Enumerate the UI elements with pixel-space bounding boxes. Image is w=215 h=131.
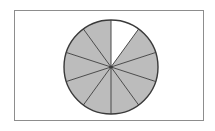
pie-chart-svg: [0, 0, 215, 131]
pie-center-dot: [109, 65, 112, 68]
pie-chart-container: [0, 0, 215, 131]
screenshot-root: [0, 0, 215, 131]
